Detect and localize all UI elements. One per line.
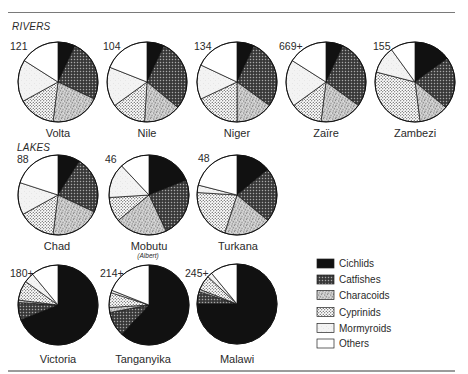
pie-nile: 104 Nile bbox=[103, 40, 187, 139]
pie-zambezi: 155 Zambezi bbox=[373, 40, 455, 139]
species-count: 48 bbox=[198, 152, 210, 164]
pie-name: Mobutu bbox=[131, 240, 168, 252]
pie-name: Zambezi bbox=[394, 127, 436, 139]
cyprinids-swatch-icon bbox=[317, 308, 334, 317]
legend: Cichlids Catfishes Characoids Cyprinids … bbox=[317, 258, 391, 349]
pie-slices bbox=[197, 155, 277, 235]
pie-volta: 121 Volta bbox=[10, 40, 98, 139]
species-count: 155 bbox=[373, 40, 391, 52]
characoids-swatch-icon bbox=[317, 291, 334, 300]
pie-name: Zaïre bbox=[313, 127, 339, 139]
species-count: 669+ bbox=[279, 40, 303, 52]
pie-name: Volta bbox=[46, 127, 71, 139]
species-count: 88 bbox=[17, 153, 29, 165]
mormyroids-swatch-icon bbox=[317, 324, 334, 333]
species-count: 104 bbox=[103, 40, 121, 52]
pie-zaire: 669+ Zaïre bbox=[279, 40, 366, 139]
legend-item-cyprinids: Cyprinids bbox=[317, 307, 381, 318]
pie-slices bbox=[375, 42, 455, 122]
pie-slices bbox=[197, 42, 277, 122]
pie-subtitle: (Albert) bbox=[137, 252, 158, 260]
legend-item-mormyroids: Mormyroids bbox=[317, 323, 391, 334]
pie-name: Niger bbox=[224, 127, 251, 139]
pie-slices bbox=[107, 42, 187, 122]
pie-slices bbox=[18, 42, 98, 122]
pie-name: Tanganyika bbox=[115, 353, 172, 365]
species-count: 46 bbox=[105, 153, 117, 165]
figure: RIVERS LAKES 121 Volta 104 Nile 134 Nige… bbox=[0, 0, 468, 374]
legend-label: Catfishes bbox=[339, 274, 381, 285]
pie-malawi: 245+ Malawi bbox=[185, 264, 277, 365]
rivers-section-label: RIVERS bbox=[12, 21, 51, 32]
pie-slices bbox=[109, 155, 189, 235]
pie-tanganyika: 214+ Tanganyika bbox=[100, 265, 189, 365]
pie-name: Malawi bbox=[220, 353, 254, 365]
species-count: 245+ bbox=[185, 267, 209, 279]
species-count: 180+ bbox=[10, 267, 34, 279]
legend-item-characoids: Characoids bbox=[317, 290, 390, 301]
cichlids-swatch-icon bbox=[317, 259, 334, 268]
pie-turkana: 48 Turkana bbox=[197, 152, 277, 252]
pie-chad: 88 Chad bbox=[17, 153, 98, 252]
legend-label: Others bbox=[339, 338, 369, 349]
pie-slices bbox=[18, 155, 98, 235]
legend-item-cichlids: Cichlids bbox=[317, 258, 374, 269]
legend-item-others: Others bbox=[317, 338, 369, 349]
pie-victoria: 180+ Victoria bbox=[10, 265, 98, 365]
legend-label: Cyprinids bbox=[339, 307, 381, 318]
catfishes-swatch-icon bbox=[317, 275, 334, 284]
lakes-section-label: LAKES bbox=[17, 142, 50, 153]
pie-slices bbox=[197, 264, 277, 344]
species-count: 214+ bbox=[100, 267, 124, 279]
species-count: 134 bbox=[194, 40, 212, 52]
pie-niger: 134 Niger bbox=[194, 40, 277, 139]
pie-name: Victoria bbox=[40, 353, 77, 365]
species-count: 121 bbox=[10, 40, 28, 52]
others-swatch-icon bbox=[317, 339, 334, 348]
pie-name: Turkana bbox=[218, 240, 259, 252]
pie-mobutu: 46 Mobutu (Albert) bbox=[105, 153, 189, 260]
pie-slices bbox=[286, 42, 366, 122]
legend-label: Cichlids bbox=[339, 258, 374, 269]
legend-label: Mormyroids bbox=[339, 323, 391, 334]
pie-name: Nile bbox=[138, 127, 157, 139]
pie-name: Chad bbox=[44, 240, 70, 252]
legend-item-catfishes: Catfishes bbox=[317, 274, 381, 285]
legend-label: Characoids bbox=[339, 290, 390, 301]
